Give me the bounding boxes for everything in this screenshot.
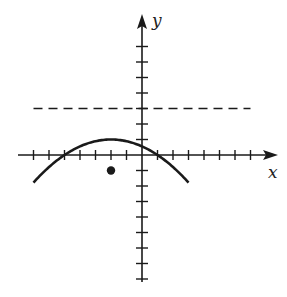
parabola-curve: [34, 140, 189, 183]
x-axis-label: x: [268, 162, 278, 182]
coordinate-plot: y x: [0, 0, 287, 297]
plotted-point: [107, 166, 115, 174]
y-axis-label: y: [151, 10, 162, 30]
